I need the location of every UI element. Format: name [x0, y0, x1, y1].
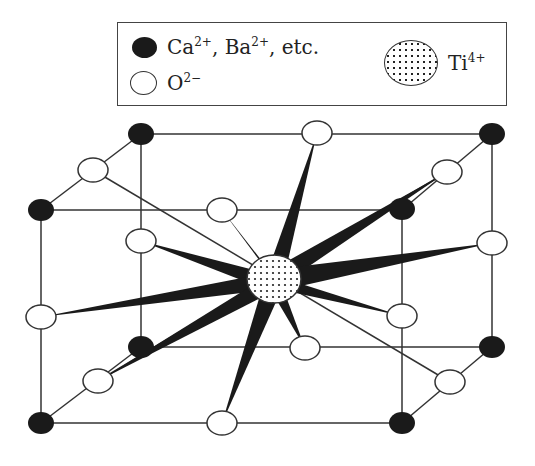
ti-ion — [247, 255, 301, 303]
perovskite-lattice-diagram — [0, 0, 535, 466]
